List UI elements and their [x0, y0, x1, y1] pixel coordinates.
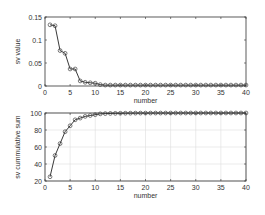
y-tick-label: 80 — [34, 127, 42, 134]
y-axis-label: sv value — [14, 39, 21, 65]
data-line — [50, 25, 246, 85]
sv-value-plot: 051015202530354000.050.10.15numbersv val… — [14, 14, 250, 105]
x-tick-label: 25 — [167, 184, 175, 191]
x-tick-label: 40 — [242, 89, 250, 96]
x-tick-label: 0 — [43, 89, 47, 96]
x-tick-label: 20 — [142, 89, 150, 96]
y-tick-label: 40 — [34, 161, 42, 168]
x-tick-label: 5 — [68, 89, 72, 96]
y-tick-label: 0.15 — [28, 14, 42, 21]
x-axis-label: number — [134, 97, 158, 104]
axes-box — [45, 17, 246, 86]
x-tick-label: 25 — [167, 89, 175, 96]
y-tick-label: 0.1 — [32, 37, 42, 44]
x-tick-label: 35 — [217, 89, 225, 96]
x-tick-label: 10 — [91, 184, 99, 191]
y-tick-label: 20 — [34, 178, 42, 185]
x-tick-label: 35 — [217, 184, 225, 191]
y-axis-label: sv cummulative sum — [14, 115, 21, 179]
x-tick-label: 40 — [242, 184, 250, 191]
y-tick-label: 0.05 — [28, 60, 42, 67]
data-line — [50, 113, 246, 177]
x-tick-label: 10 — [91, 89, 99, 96]
x-tick-label: 30 — [192, 184, 200, 191]
x-tick-label: 20 — [142, 184, 150, 191]
y-tick-label: 0 — [38, 83, 42, 90]
x-axis-label: number — [134, 192, 158, 199]
figure: 051015202530354000.050.10.15numbersv val… — [0, 0, 265, 215]
sv-cumsum-plot: 051015202530354020406080100numbersv cumm… — [14, 110, 250, 200]
x-tick-label: 0 — [43, 184, 47, 191]
y-tick-label: 100 — [30, 110, 42, 117]
x-tick-label: 15 — [116, 184, 124, 191]
x-tick-label: 5 — [68, 184, 72, 191]
x-tick-label: 30 — [192, 89, 200, 96]
x-tick-label: 15 — [116, 89, 124, 96]
y-tick-label: 60 — [34, 144, 42, 151]
